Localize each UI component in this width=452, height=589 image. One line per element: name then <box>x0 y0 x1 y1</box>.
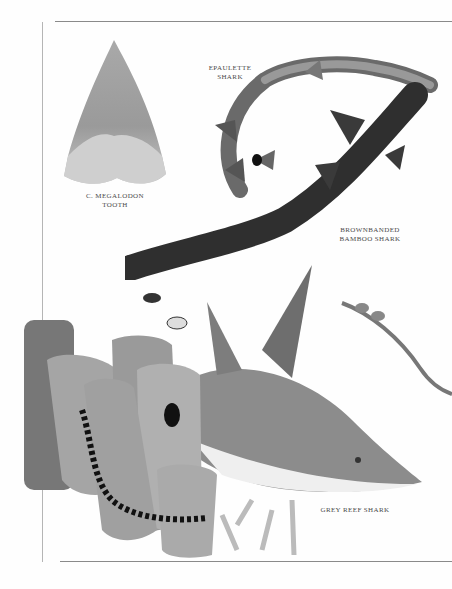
caption-line: Brownbanded <box>330 226 410 235</box>
caption-brownbanded-bamboo-shark: Brownbanded Bamboo Shark <box>330 226 410 244</box>
bottom-rule <box>60 561 452 562</box>
caption-line: Grey reef shark <box>315 506 395 515</box>
caption-line: Bamboo Shark <box>330 235 410 244</box>
epaulette-and-bamboo-shark-illustration <box>125 50 452 280</box>
caption-grey-reef-shark: Grey reef shark <box>315 506 395 515</box>
caption-line: Shark <box>205 73 255 82</box>
top-rule <box>55 21 452 22</box>
shark-tail-fragment-illustration <box>340 298 452 398</box>
caption-epaulette-shark: Epaulette Shark <box>205 64 255 82</box>
caption-line: Epaulette <box>205 64 255 73</box>
